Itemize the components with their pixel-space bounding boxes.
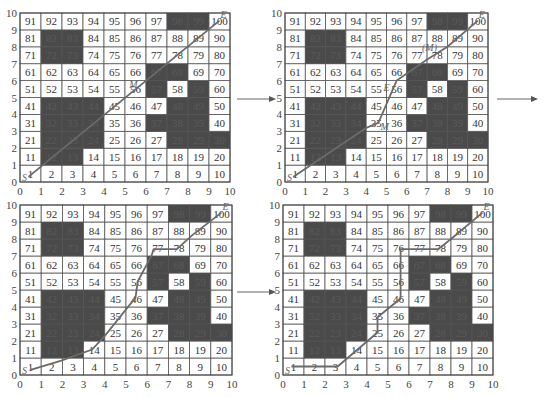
cell-number: 47 — [414, 293, 426, 305]
cell-number: 7 — [417, 361, 423, 373]
y-tick-label: 6 — [275, 267, 281, 279]
cell-number: 48 — [435, 293, 447, 305]
cell-number: 57 — [414, 276, 426, 288]
cell-number: 67 — [414, 259, 426, 271]
x-tick-label: 3 — [343, 378, 349, 390]
y-tick-label: 8 — [275, 233, 281, 245]
cell-number: 52 — [309, 276, 320, 288]
cell-number: 56 — [393, 276, 405, 288]
y-tick-label: 2 — [275, 335, 281, 347]
cell-number: 87 — [414, 225, 426, 237]
y-tick-label: 0 — [275, 369, 281, 381]
cell-number: 9 — [459, 361, 465, 373]
cell-number: 85 — [372, 225, 384, 237]
cell-number: 34 — [351, 310, 363, 322]
cell-number: 93 — [330, 208, 342, 220]
x-tick-label: 4 — [364, 378, 370, 390]
x-tick-label: 7 — [427, 378, 433, 390]
cell-number: 39 — [456, 310, 468, 322]
cell-number: 53 — [330, 276, 342, 288]
cell-number: 88 — [435, 225, 447, 237]
grid-panel-4: 1234567891011121314151617181920212223242… — [0, 0, 545, 397]
cell-number: 49 — [456, 293, 468, 305]
start-label: S — [285, 365, 290, 376]
cell-number: 29 — [456, 327, 468, 339]
cell-number: 11 — [288, 344, 299, 356]
cell-number: 72 — [309, 242, 320, 254]
cell-number: 94 — [351, 208, 363, 220]
panel-4: 1234567891011121314151617181920212223242… — [0, 0, 545, 397]
cell-number: 41 — [288, 293, 299, 305]
x-tick-label: 1 — [301, 378, 307, 390]
cell-number: 63 — [330, 259, 342, 271]
cell-number: 71 — [288, 242, 299, 254]
cell-number: 76 — [393, 242, 405, 254]
cell-number: 13 — [330, 344, 342, 356]
x-tick-label: 10 — [488, 378, 500, 390]
cell-number: 96 — [393, 208, 405, 220]
cell-number: 95 — [372, 208, 384, 220]
cell-number: 27 — [414, 327, 426, 339]
cell-number: 82 — [309, 225, 320, 237]
y-tick-label: 10 — [269, 199, 281, 211]
cell-number: 61 — [288, 259, 299, 271]
cell-number: 79 — [456, 242, 468, 254]
cell-number: 68 — [435, 259, 447, 271]
cell-number: 86 — [393, 225, 405, 237]
end-label: E — [483, 201, 490, 212]
cell-number: 44 — [351, 293, 363, 305]
cell-number: 15 — [372, 344, 384, 356]
cell-number: 77 — [414, 242, 426, 254]
cell-number: 17 — [414, 344, 426, 356]
cell-number: 19 — [456, 344, 468, 356]
cell-number: 64 — [351, 259, 363, 271]
cell-number: 84 — [351, 225, 363, 237]
cell-number: 18 — [435, 344, 447, 356]
cell-number: 83 — [330, 225, 342, 237]
cell-number: 99 — [456, 208, 468, 220]
cell-number: 70 — [477, 259, 489, 271]
arrow-right-icon — [235, 286, 277, 298]
x-tick-label: 0 — [280, 378, 286, 390]
cell-number: 40 — [477, 310, 489, 322]
cell-number: 10 — [477, 361, 489, 373]
y-tick-label: 1 — [275, 352, 281, 364]
cell-number: 98 — [435, 208, 447, 220]
cell-number: 97 — [414, 208, 426, 220]
cell-number: 43 — [330, 293, 342, 305]
cell-number: 32 — [309, 310, 320, 322]
cell-number: 74 — [351, 242, 363, 254]
cell-number: 69 — [456, 259, 468, 271]
y-tick-label: 9 — [275, 216, 281, 228]
cell-number: 91 — [288, 208, 299, 220]
cell-number: 12 — [309, 344, 320, 356]
cell-number: 58 — [435, 276, 447, 288]
cell-number: 30 — [477, 327, 489, 339]
cell-number: 73 — [330, 242, 342, 254]
cell-number: 31 — [288, 310, 299, 322]
cell-number: 55 — [372, 276, 384, 288]
cell-number: 21 — [288, 327, 299, 339]
cell-number: 66 — [393, 259, 405, 271]
cell-number: 23 — [330, 327, 342, 339]
y-tick-label: 7 — [275, 250, 281, 262]
cell-number: 75 — [372, 242, 384, 254]
cell-number: 26 — [393, 327, 405, 339]
x-tick-label: 9 — [469, 378, 475, 390]
cell-number: 33 — [330, 310, 342, 322]
x-tick-label: 8 — [448, 378, 454, 390]
cell-number: 28 — [435, 327, 447, 339]
cell-number: 20 — [477, 344, 489, 356]
cell-number: 51 — [288, 276, 299, 288]
cell-number: 37 — [414, 310, 426, 322]
cell-number: 42 — [309, 293, 320, 305]
cell-number: 8 — [438, 361, 444, 373]
cell-number: 92 — [309, 208, 320, 220]
cell-number: 4 — [354, 361, 360, 373]
cell-number: 80 — [477, 242, 489, 254]
cell-number: 81 — [288, 225, 299, 237]
x-tick-label: 6 — [406, 378, 412, 390]
arrow-right-icon — [235, 93, 277, 105]
cell-number: 24 — [351, 327, 363, 339]
cell-number: 90 — [477, 225, 489, 237]
